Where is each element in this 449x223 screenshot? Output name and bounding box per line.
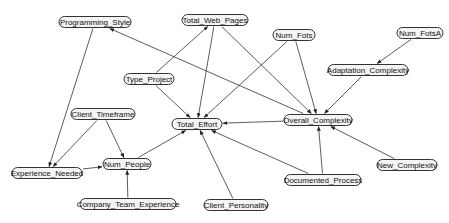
node-label: Num_People [104,160,151,169]
node-label: Client_Timeframe [72,110,135,119]
edge-documented-process-to-overall-complexity [319,127,323,174]
edge-type-project-to-total-web-pages [156,27,207,73]
node-label: Num_Fots [276,31,313,40]
node-adaptation-complexity[interactable]: Adaptation_Complexity [327,65,409,76]
edge-programming-style-to-experience-needed [49,29,93,167]
bayesian-network-diagram: Programming_StyleTotal_Web_PagesNum_Fots… [0,0,449,223]
node-type-project[interactable]: Type_Project [124,74,174,85]
node-label: Client_Personality [204,201,268,210]
node-num-fotsa[interactable]: Num_FotsA [397,28,443,39]
node-label: Num_FotsA [399,29,442,38]
nodes-layer: Programming_StyleTotal_Web_PagesNum_Fots… [11,15,443,211]
node-label: Total_Effort [177,120,218,129]
node-programming-style[interactable]: Programming_Style [59,17,131,28]
edge-num-fots-to-overall-complexity [296,42,316,114]
node-num-people[interactable]: Num_People [103,159,151,170]
edge-experience-needed-to-num-people [83,167,102,169]
edge-adaptation-complexity-to-overall-complexity [325,77,362,114]
node-label: Overall_Complexity [283,116,352,125]
node-label: Experience_Needed [11,169,84,178]
edge-new-complexity-to-overall-complexity [331,127,394,159]
node-overall-complexity[interactable]: Overall_Complexity [283,115,352,126]
node-new-complexity[interactable]: New_Complexity [377,160,437,171]
node-client-personality[interactable]: Client_Personality [204,200,268,211]
node-label: Company_Team_Experience [77,200,180,209]
edge-overall-complexity-to-total-effort [223,121,283,123]
node-label: Adaptation_Complexity [327,66,409,75]
edge-total-web-pages-to-total-effort [198,27,214,118]
node-label: Total_Web_Pages [183,16,248,25]
edge-num-people-to-total-effort [138,131,185,158]
node-label: New_Complexity [377,161,437,170]
edge-type-project-to-total-effort [156,86,190,118]
node-label: Type_Project [126,75,173,84]
node-client-timeframe[interactable]: Client_Timeframe [71,109,135,120]
node-label: Documented_Process [284,176,363,185]
edge-client-timeframe-to-num-people [106,121,124,158]
edge-num-fotsa-to-adaptation-complexity [377,40,411,64]
node-company-team-experience[interactable]: Company_Team_Experience [77,199,180,210]
node-total-effort[interactable]: Total_Effort [172,119,222,130]
node-num-fots[interactable]: Num_Fots [273,30,315,41]
edge-client-timeframe-to-experience-needed [53,121,97,167]
node-label: Programming_Style [60,18,131,27]
edge-client-personality-to-total-effort [200,131,233,199]
node-total-web-pages[interactable]: Total_Web_Pages [182,15,248,26]
edge-company-team-experience-to-num-people [127,171,128,198]
node-experience-needed[interactable]: Experience_Needed [11,168,84,179]
edge-num-fots-to-total-effort [204,42,287,118]
node-documented-process[interactable]: Documented_Process [284,175,363,186]
edge-documented-process-to-total-effort [212,131,309,174]
